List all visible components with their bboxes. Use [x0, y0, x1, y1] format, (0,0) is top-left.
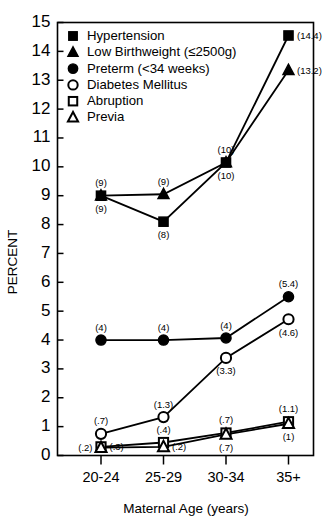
marker-filled-square [284, 31, 293, 40]
point-value-label: (4.6) [279, 327, 299, 338]
point-value-label: (10) [218, 170, 235, 181]
marker-filled-circle [68, 64, 77, 73]
y-tick-label: 13 [32, 70, 51, 89]
marker-filled-triangle [283, 64, 294, 74]
point-value-label: (8) [158, 229, 170, 240]
point-value-label: (14.4) [297, 30, 322, 41]
point-value-label: (9) [95, 203, 107, 214]
point-value-label: (9) [95, 177, 107, 188]
marker-filled-circle [221, 333, 231, 343]
y-tick-label: 0 [41, 445, 50, 464]
chart-legend: HypertensionLow Birthweight (≤2500g)Pret… [68, 28, 237, 125]
legend-item-label: Hypertension [87, 28, 165, 43]
marker-filled-circle [158, 335, 168, 345]
point-value-label: (1.1) [279, 403, 299, 414]
point-value-label: (5.4) [279, 278, 299, 289]
point-value-label: (.7) [219, 414, 233, 425]
x-tick-label: 35+ [276, 469, 301, 485]
point-value-label: (.2) [172, 441, 186, 452]
x-axis: 20-2425-2930-3435+ [82, 456, 300, 485]
y-tick-label: 11 [33, 127, 51, 146]
point-value-label: (4) [95, 322, 107, 333]
x-axis-title: Maternal Age (years) [123, 501, 248, 516]
marker-open-triangle [68, 112, 78, 121]
legend-item-label: Preterm (<34 weeks) [87, 61, 210, 76]
x-tick-label: 30-34 [207, 469, 244, 485]
marker-filled-triangle [68, 47, 78, 56]
point-value-label: (.7) [94, 415, 108, 426]
marker-filled-circle [283, 292, 293, 302]
marker-filled-square [69, 32, 77, 40]
legend-item-label: Low Birthweight (≤2500g) [87, 44, 236, 59]
point-value-label: (.2) [78, 442, 92, 453]
y-tick-label: 6 [41, 272, 50, 291]
marker-open-square [69, 97, 77, 105]
marker-filled-triangle [158, 188, 169, 198]
point-value-label: (13.2) [297, 65, 322, 76]
x-tick-label: 25-29 [145, 469, 182, 485]
y-axis-title: PERCENT [5, 230, 20, 295]
marker-open-circle [221, 353, 231, 363]
y-tick-label: 1 [41, 416, 50, 435]
y-tick-label: 10 [32, 156, 51, 175]
y-tick-label: 15 [32, 12, 51, 31]
marker-open-circle [96, 429, 106, 439]
point-value-label: (9) [158, 176, 170, 187]
point-value-label: (3.3) [216, 365, 236, 376]
point-value-label: (1) [283, 431, 295, 442]
marker-filled-square [159, 217, 168, 226]
point-value-label: (4) [220, 320, 232, 331]
marker-filled-circle [96, 335, 106, 345]
y-tick-label: 3 [41, 358, 50, 377]
y-axis: 0123456789101112131415 [32, 12, 64, 464]
series-line-2 [101, 297, 289, 340]
series-line-3 [101, 319, 289, 434]
line-chart: 0123456789101112131415 20-2425-2930-3435… [0, 0, 331, 524]
y-tick-label: 8 [41, 214, 50, 233]
y-tick-label: 12 [32, 99, 51, 118]
legend-item-label: Previa [87, 109, 125, 124]
legend-item-label: Abruption [87, 93, 143, 108]
point-value-label: (10) [218, 144, 235, 155]
chart-container: 0123456789101112131415 20-2425-2930-3435… [0, 0, 331, 524]
x-tick-label: 20-24 [82, 469, 119, 485]
point-value-label: (.3) [110, 441, 124, 452]
y-tick-label: 2 [41, 387, 50, 406]
y-tick-label: 14 [32, 41, 51, 60]
marker-open-circle [68, 80, 77, 89]
point-value-label: (.4) [156, 424, 170, 435]
y-tick-label: 9 [41, 185, 50, 204]
marker-open-circle [158, 412, 168, 422]
y-tick-label: 5 [41, 301, 50, 320]
y-tick-label: 7 [41, 243, 50, 262]
point-value-label: (4) [158, 322, 170, 333]
legend-item-label: Diabetes Mellitus [87, 77, 188, 92]
marker-open-circle [283, 314, 293, 324]
point-value-label: (1.3) [154, 399, 174, 410]
point-value-label: (.7) [219, 442, 233, 453]
y-tick-label: 4 [41, 330, 50, 349]
